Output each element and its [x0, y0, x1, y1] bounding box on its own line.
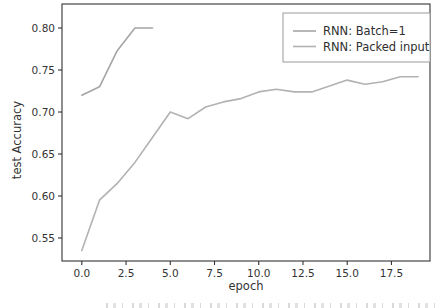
legend: RNN: Batch=1RNN: Packed input — [283, 13, 430, 62]
figure-canvas: 0.02.55.07.510.012.515.017.5 0.550.600.6… — [0, 0, 440, 308]
series-line-0 — [82, 28, 153, 95]
line-chart: 0.02.55.07.510.012.515.017.5 0.550.600.6… — [0, 0, 440, 308]
x-tick-label: 10.0 — [247, 267, 270, 279]
series-line-1 — [82, 77, 418, 251]
x-tick-label: 7.5 — [206, 267, 223, 279]
y-axis-ticks: 0.550.600.650.700.750.80 — [32, 22, 62, 244]
x-tick-label: 17.5 — [380, 267, 403, 279]
x-tick-label: 5.0 — [162, 267, 179, 279]
y-tick-label: 0.65 — [32, 148, 55, 160]
x-tick-label: 15.0 — [336, 267, 359, 279]
y-tick-label: 0.75 — [32, 64, 55, 76]
legend-label-1: RNN: Packed input — [323, 40, 430, 54]
y-tick-label: 0.60 — [32, 190, 55, 202]
x-axis-label: epoch — [228, 279, 263, 293]
cutoff-caption-fragment — [106, 303, 438, 308]
y-axis-label: test Accuracy — [10, 101, 24, 179]
legend-label-0: RNN: Batch=1 — [323, 24, 406, 38]
x-tick-label: 0.0 — [73, 267, 90, 279]
y-tick-label: 0.70 — [32, 106, 55, 118]
x-axis-ticks: 0.02.55.07.510.012.515.017.5 — [73, 261, 403, 279]
x-tick-label: 2.5 — [118, 267, 135, 279]
y-tick-label: 0.80 — [32, 22, 55, 34]
y-tick-label: 0.55 — [32, 232, 55, 244]
x-tick-label: 12.5 — [291, 267, 314, 279]
